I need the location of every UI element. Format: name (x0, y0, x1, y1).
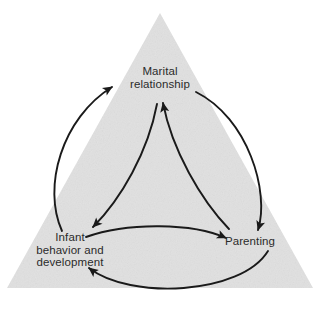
background-triangle (7, 13, 313, 288)
diagram-canvas: Marital relationship Infant behavior and… (0, 0, 320, 313)
diagram-graphics (0, 0, 320, 313)
